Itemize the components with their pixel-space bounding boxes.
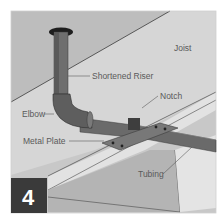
- step-badge: 4: [11, 178, 47, 213]
- notch: [128, 118, 140, 130]
- label-elbow: Elbow: [22, 109, 46, 119]
- label-shortened-riser: Shortened Riser: [92, 71, 154, 81]
- step-number: 4: [22, 185, 35, 210]
- label-notch: Notch: [160, 91, 182, 101]
- plumbing-illustration: Joist Shortened Riser Notch Elbow Metal …: [0, 0, 224, 223]
- label-joist: Joist: [174, 43, 192, 53]
- label-tubing: Tubing: [138, 169, 164, 179]
- label-metal-plate: Metal Plate: [23, 136, 66, 146]
